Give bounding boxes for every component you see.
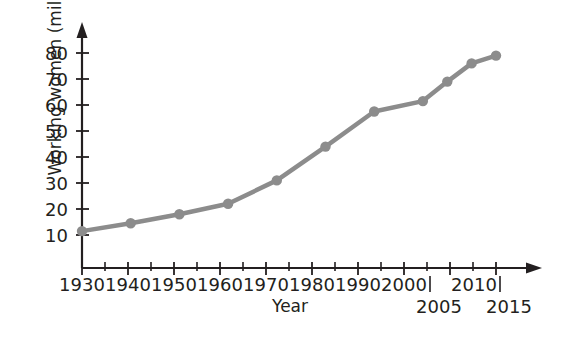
- x-axis-label-separators: [430, 276, 500, 292]
- data-point: [491, 50, 501, 60]
- data-point: [466, 58, 476, 68]
- x-axis-minor-ticks: [105, 262, 473, 271]
- data-point: [223, 199, 233, 209]
- line-chart: Working women (millions) 80 70 60 50 40 …: [0, 0, 576, 348]
- data-point: [442, 76, 452, 86]
- data-point: [369, 106, 379, 116]
- chart-canvas: [0, 0, 576, 348]
- data-point: [320, 141, 330, 151]
- data-point: [418, 96, 428, 106]
- data-point: [77, 226, 87, 236]
- data-point: [126, 218, 136, 228]
- data-point: [174, 209, 184, 219]
- data-series-working-women: [77, 50, 501, 236]
- data-point: [272, 175, 282, 185]
